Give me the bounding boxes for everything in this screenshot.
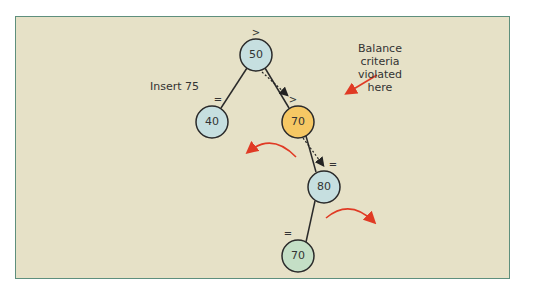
node-40-value: 40 [196,115,228,128]
balance-50: > [250,26,262,39]
rotate-right-arrow [326,209,374,222]
balance-40: = [212,93,224,106]
avl-tree-diagram [0,0,537,292]
node-50-value: 50 [240,48,272,61]
violation-line-4: here [345,81,415,94]
rotate-left-arrow [248,143,296,157]
violation-line-1: Balance [345,42,415,55]
tree-edges [221,68,316,242]
balance-70-leaf: = [282,227,294,240]
insert-annotation: Insert 75 [150,80,210,93]
balance-80: = [327,158,339,171]
balance-70-unbalanced: > [287,93,299,106]
violation-annotation: Balance criteria violated here [345,42,415,94]
node-70-unbalanced-value: 70 [282,115,314,128]
node-80-value: 80 [308,180,340,193]
node-70-leaf-value: 70 [282,249,314,262]
violation-line-2: criteria [345,55,415,68]
rotation-arrows [248,75,377,222]
violation-line-3: violated [345,68,415,81]
